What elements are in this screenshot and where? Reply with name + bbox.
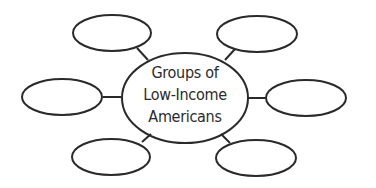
satellite-right[interactable] [266, 80, 346, 116]
center-label-line-2: Low-Income [121, 84, 249, 106]
connector-top-right [225, 49, 235, 60]
satellite-bottom-left[interactable] [72, 139, 150, 175]
satellite-top-left[interactable] [73, 15, 151, 51]
center-node-label: Groups of Low-Income Americans [121, 62, 249, 128]
center-label-line-1: Groups of [121, 62, 249, 84]
satellite-left[interactable] [22, 79, 102, 115]
connector-top-left [137, 48, 148, 60]
center-label-line-3: Americans [121, 106, 249, 128]
satellite-top-right[interactable] [217, 16, 297, 52]
satellite-bottom-right[interactable] [216, 140, 296, 176]
